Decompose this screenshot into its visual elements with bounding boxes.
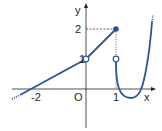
y-axis-arrow-icon <box>84 3 88 8</box>
x-tick-minus2: -2 <box>31 91 41 103</box>
y-tick-2: 2 <box>75 23 81 35</box>
dotted-curve-extension <box>152 15 153 22</box>
dotted-extension <box>12 95 20 99</box>
origin-label: O <box>74 91 83 103</box>
x-tick-1: 1 <box>113 91 119 103</box>
filled-point-1-2 <box>113 26 119 32</box>
y-axis-label: y <box>75 4 81 16</box>
line-piece <box>20 29 116 95</box>
x-axis-arrow-icon <box>151 87 156 91</box>
function-graph: y x O 2 1 -2 1 <box>0 0 162 131</box>
y-tick-1: 1 <box>79 53 85 65</box>
open-point-1-1 <box>113 56 119 62</box>
curve-piece <box>116 22 152 98</box>
x-axis-label: x <box>144 91 150 103</box>
